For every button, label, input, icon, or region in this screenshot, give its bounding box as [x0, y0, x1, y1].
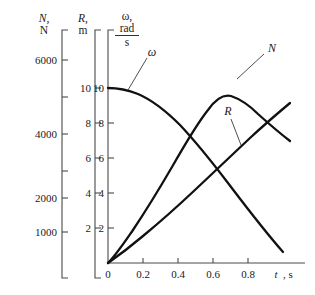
r-axis-label-2: 2	[86, 222, 92, 234]
omega-axis-label-8: 8	[99, 117, 105, 129]
omega-axis-group: ω, rad s 10 8 6 4 2	[93, 10, 139, 263]
omega-label-leader	[128, 58, 147, 90]
curve-r	[108, 103, 290, 263]
n-axis-group: N, N 6000 4000 2000 1000	[35, 12, 68, 278]
figure-container: N, N 6000 4000 2000 1000 R, m 10 8 6 4 2	[0, 0, 315, 295]
omega-axis-header-denominator: s	[125, 36, 130, 48]
x-axis-label-0.8: 0.8	[241, 268, 255, 280]
n-axis-header-unit: N	[40, 24, 49, 36]
n-curve-annotation: N	[237, 41, 277, 79]
omega-axis-label-10: 10	[93, 82, 105, 94]
x-axis-label-0.4: 0.4	[171, 268, 185, 280]
x-axis-title-symbol: t	[274, 268, 278, 280]
r-axis-label-10: 10	[80, 82, 92, 94]
x-axis-label-0.2: 0.2	[136, 268, 150, 280]
r-axis-header-unit: m	[79, 24, 88, 36]
curve-label-r: R	[223, 104, 232, 118]
r-label-leader	[231, 119, 241, 145]
x-axis-label-0: 0	[105, 268, 111, 280]
curve-label-omega: ω	[148, 45, 156, 59]
omega-curve-annotation: ω	[128, 45, 156, 90]
x-axis-title-unit: , s	[283, 268, 293, 280]
n-label-leader	[237, 54, 264, 79]
r-axis-label-8: 8	[86, 117, 92, 129]
omega-axis-label-2: 2	[99, 222, 105, 234]
n-axis-label-4000: 4000	[35, 128, 58, 140]
curve-label-n: N	[267, 41, 277, 55]
x-axis-label-0.6: 0.6	[206, 268, 220, 280]
n-axis-label-6000: 6000	[35, 54, 58, 66]
n-axis-line	[62, 30, 68, 278]
x-axis-group: 0 0.2 0.4 0.6 0.8 t , s	[105, 258, 305, 280]
omega-axis-label-4: 4	[99, 187, 105, 199]
r-axis-group: R, m 10 8 6 4 2	[77, 12, 101, 278]
r-axis-label-6: 6	[86, 152, 92, 164]
n-axis-label-1000: 1000	[35, 226, 58, 238]
multi-axis-plot: N, N 6000 4000 2000 1000 R, m 10 8 6 4 2	[0, 0, 315, 295]
omega-axis-header-numerator: rad	[120, 22, 135, 34]
omega-axis-label-6: 6	[99, 152, 105, 164]
n-axis-label-2000: 2000	[35, 192, 58, 204]
curve-n	[108, 96, 290, 263]
r-axis-label-4: 4	[86, 187, 92, 199]
r-curve-annotation: R	[223, 104, 241, 145]
